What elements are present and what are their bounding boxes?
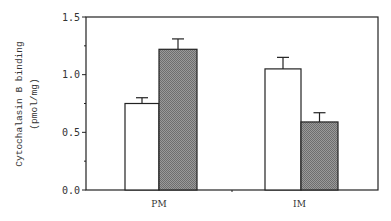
y-tick-label: 0.0	[62, 185, 80, 196]
x-axis: PMIM	[151, 190, 306, 209]
y-tick-label: 0.5	[62, 127, 80, 138]
bar-im-open	[265, 69, 301, 190]
x-category-label: IM	[293, 199, 306, 209]
y-tick-label: 1.5	[62, 12, 80, 23]
y-axis-unit: (pmol/mg)	[29, 78, 40, 129]
bar-chart: 0.00.51.01.5 PMIM Cytochalasin B binding…	[0, 0, 391, 221]
y-axis-title: Cytochalasin B binding	[14, 41, 25, 166]
y-axis: 0.00.51.01.5	[62, 12, 86, 196]
x-category-label: PM	[151, 199, 166, 209]
y-tick-label: 1.0	[62, 69, 80, 80]
bar-pm-hatched	[159, 49, 197, 190]
plot-area	[86, 17, 378, 190]
bar-pm-open	[125, 104, 159, 191]
bar-im-hatched	[301, 122, 338, 190]
